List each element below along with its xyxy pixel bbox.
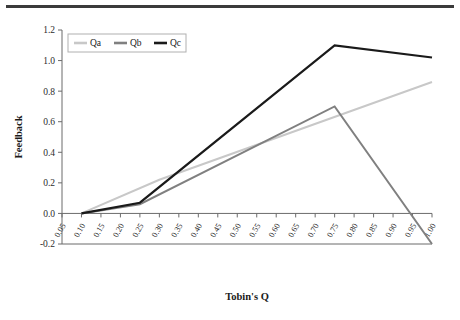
chart-svg: 1.21.00.80.60.40.20.0-0.20.050.100.150.2… xyxy=(0,12,460,312)
x-tick-label: 0.20 xyxy=(111,222,126,239)
y-tick-label: 0.8 xyxy=(43,87,55,97)
x-tick-label: 0.70 xyxy=(306,222,321,239)
top-divider-rule xyxy=(6,5,454,8)
x-tick-label: 0.05 xyxy=(53,222,68,239)
y-axis-title: Feedback xyxy=(13,115,24,158)
y-tick-label: 0.0 xyxy=(43,209,55,219)
legend-label-qb: Qb xyxy=(130,38,142,48)
x-tick-label: 0.80 xyxy=(345,222,360,239)
series-line-qa xyxy=(81,82,432,213)
x-tick-label: 0.30 xyxy=(150,222,165,239)
x-axis-title: Tobin's Q xyxy=(225,291,269,302)
line-chart: 1.21.00.80.60.40.20.0-0.20.050.100.150.2… xyxy=(0,12,460,320)
x-tick-label: 0.90 xyxy=(384,222,399,239)
figure: 1.21.00.80.60.40.20.0-0.20.050.100.150.2… xyxy=(0,0,460,320)
x-tick-label: 0.75 xyxy=(325,222,340,239)
y-tick-label: 0.4 xyxy=(43,148,55,158)
x-tick-label: 0.95 xyxy=(403,222,418,239)
x-tick-label: 0.60 xyxy=(267,222,282,239)
x-tick-label: 0.35 xyxy=(170,222,185,239)
x-tick-label: 0.45 xyxy=(208,222,223,239)
legend-label-qa: Qa xyxy=(90,38,102,48)
y-tick-label: -0.2 xyxy=(40,239,55,249)
y-tick-label: 1.0 xyxy=(43,56,55,66)
x-tick-label: 0.40 xyxy=(189,222,204,239)
legend-label-qc: Qc xyxy=(170,38,181,48)
x-tick-label: 0.10 xyxy=(72,222,87,239)
x-tick-label: 0.65 xyxy=(286,222,301,239)
series-line-qc xyxy=(81,45,432,213)
y-tick-label: 0.6 xyxy=(43,117,55,127)
x-tick-label: 0.50 xyxy=(228,222,243,239)
x-tick-label: 0.15 xyxy=(92,222,107,239)
x-tick-label: 1.00 xyxy=(423,222,438,239)
x-tick-label: 0.55 xyxy=(247,222,262,239)
y-tick-label: 1.2 xyxy=(43,25,55,35)
x-tick-label: 0.85 xyxy=(364,222,379,239)
y-tick-label: 0.2 xyxy=(43,178,55,188)
x-tick-label: 0.25 xyxy=(131,222,146,239)
